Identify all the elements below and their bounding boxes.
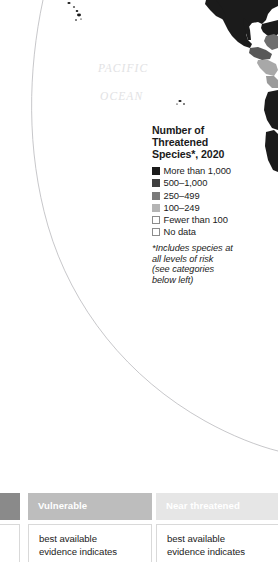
table-column-vulnerable: Vulnerable best available evidence indic… (28, 493, 152, 562)
table-cell-near-threatened: best available evidence indicates (156, 524, 278, 562)
legend-swatch-fewer-than-100 (152, 216, 160, 224)
island-dot-4 (77, 14, 81, 17)
island-galapagos-3 (176, 103, 178, 104)
legend-swatch-100-249 (152, 204, 160, 212)
legend-label-more-than-1000: More than 1,000 (164, 166, 232, 176)
landmass-yucatan (264, 34, 278, 50)
legend-swatch-500-1000 (152, 179, 160, 187)
island-galapagos-1 (178, 100, 181, 102)
legend-swatch-250-499 (152, 192, 160, 200)
island-dot-5 (75, 19, 77, 20)
table-cell-vulnerable: best available evidence indicates (28, 524, 152, 562)
legend-item-500-1000: 500–1,000 (152, 178, 264, 190)
island-galapagos-2 (183, 103, 185, 104)
landmass-panama (266, 76, 278, 88)
landmass-guatemala-honduras (249, 47, 272, 60)
landmass-nicaragua-costarica (257, 60, 278, 76)
island-dot-6 (80, 18, 82, 19)
conservation-status-table: s Vulnerable best available evidence ind… (0, 493, 278, 562)
ocean-label-ocean: OCEAN (100, 90, 143, 102)
island-dot-3 (76, 10, 79, 12)
table-header-near-threatened: Near threatened (156, 493, 278, 520)
world-map-panel: PACIFIC OCEAN Number of Threatened Speci… (0, 0, 278, 462)
table-header-clipped (0, 493, 20, 520)
island-dot-2 (73, 6, 75, 8)
ocean-label-pacific: PACIFIC (98, 62, 148, 74)
table-header-vulnerable: Vulnerable (28, 493, 152, 520)
table-column-clipped: s (0, 493, 20, 562)
table-cell-clipped: s (0, 524, 20, 562)
legend-item-250-499: 250–499 (152, 190, 264, 202)
legend-label-100-249: 100–249 (164, 203, 200, 213)
legend-item-more-than-1000: More than 1,000 (152, 165, 264, 177)
legend-label-250-499: 250–499 (164, 191, 200, 201)
legend-item-no-data: No data (152, 226, 264, 238)
legend-label-fewer-than-100: Fewer than 100 (164, 215, 228, 225)
landmass-colombia (264, 90, 278, 130)
legend-label-no-data: No data (164, 227, 197, 237)
landmass-peru-coast (265, 130, 278, 172)
legend-swatch-no-data (152, 228, 160, 236)
legend-swatch-more-than-1000 (152, 167, 160, 175)
map-legend: Number of Threatened Species*, 2020 More… (152, 125, 264, 285)
legend-item-100-249: 100–249 (152, 202, 264, 214)
legend-footnote: *Includes species at all levels of risk … (152, 243, 264, 285)
table-column-near-threatened: Near threatened best available evidence … (156, 493, 278, 562)
island-dot-1 (67, 2, 70, 4)
legend-item-fewer-than-100: Fewer than 100 (152, 214, 264, 226)
legend-label-500-1000: 500–1,000 (164, 178, 208, 188)
legend-title: Number of Threatened Species*, 2020 (152, 125, 264, 160)
